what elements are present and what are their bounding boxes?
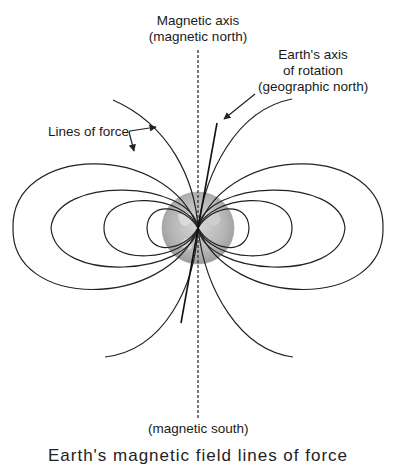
rotation-axis-line2: of rotation [258,63,368,79]
magnetic-north-label: (magnetic north) [148,29,248,45]
magnetic-axis-label: Magnetic axis (magnetic north) [148,13,248,45]
magnetic-south-label: (magnetic south) [148,421,248,437]
lines-of-force-label: Lines of force [48,124,129,140]
geographic-north-label: (geographic north) [258,79,368,95]
rotation-axis-label: Earth's axis of rotation (geographic nor… [258,47,368,95]
rotation-axis-line1: Earth's axis [258,47,368,63]
magnetic-axis-title: Magnetic axis [148,13,248,29]
figure-caption-cropped: Earth's magnetic field lines of force [0,446,396,466]
